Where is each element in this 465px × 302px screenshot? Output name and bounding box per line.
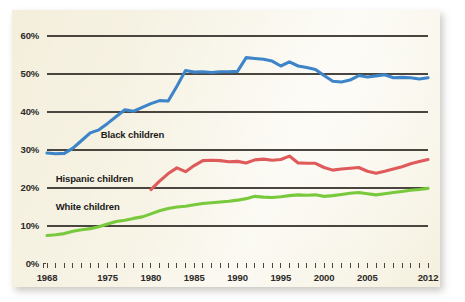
x-axis-tick-label: 1995 <box>261 272 301 283</box>
axis-origin-mark <box>43 263 46 268</box>
series-annotation-hispanic-children: Hispanic children <box>56 173 134 184</box>
y-axis-tick-label: 0% <box>9 258 39 269</box>
series-annotation-white-children: White children <box>56 201 120 212</box>
y-axis-tick-label: 10% <box>9 220 39 231</box>
y-axis-tick-label: 60% <box>9 30 39 41</box>
series-annotation-black-children: Black children <box>101 129 165 140</box>
y-axis-tick-label: 20% <box>9 182 39 193</box>
x-axis-tick-label: 1975 <box>88 272 128 283</box>
x-axis-tick-label: 2005 <box>347 272 387 283</box>
x-axis-tick-label: 1990 <box>218 272 258 283</box>
y-axis-tick-label: 30% <box>9 144 39 155</box>
x-axis-tick-label: 1980 <box>131 272 171 283</box>
x-axis-tick-label: 2012 <box>408 272 448 283</box>
y-axis-tick-label: 50% <box>9 68 39 79</box>
y-axis-tick-label: 40% <box>9 106 39 117</box>
chart-plot-area <box>0 0 465 302</box>
x-axis-tick-label: 1968 <box>27 272 67 283</box>
x-axis-tick-label: 1985 <box>174 272 214 283</box>
chart-figure: 0%10%20%30%40%50%60%19681975198019851990… <box>0 0 465 302</box>
x-axis-tick-label: 2000 <box>304 272 344 283</box>
series-line-hispanic-children <box>151 156 428 189</box>
